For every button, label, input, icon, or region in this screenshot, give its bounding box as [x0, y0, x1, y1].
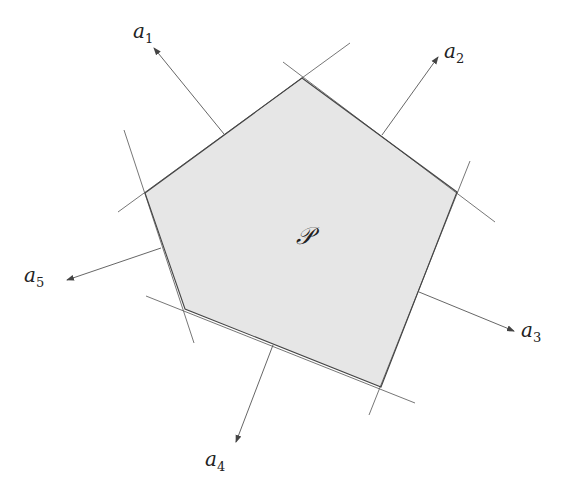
label-a2: a2	[444, 39, 464, 66]
label-a5: a5	[24, 263, 44, 290]
normal-arrow-a1	[154, 48, 224, 134]
label-a1: a1	[133, 19, 153, 46]
normal-arrow-a2	[382, 57, 438, 135]
label-a4: a4	[205, 447, 225, 474]
normal-arrow-a4	[236, 345, 273, 442]
normal-arrow-a5	[67, 248, 161, 280]
label-a3: a3	[521, 318, 541, 345]
polyhedron-diagram: a1a2a3a4a5 𝒫	[0, 0, 575, 491]
normal-arrow-a3	[419, 292, 514, 331]
